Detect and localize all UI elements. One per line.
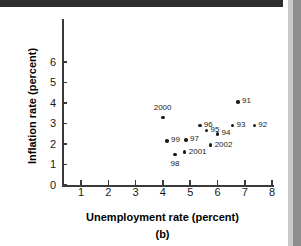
data-point-label-2002: 2002 [215, 141, 233, 149]
x-tick-7 [244, 180, 246, 185]
figure-panel-b: 0123456 12345678 91929394959697989920002… [0, 0, 301, 246]
x-tick-1 [80, 180, 82, 185]
data-point-93 [231, 124, 235, 128]
data-point-2002 [209, 143, 213, 147]
x-tick-8 [271, 180, 273, 185]
y-tick-label-5: 5 [38, 77, 56, 88]
panel-label: (b) [50, 228, 275, 240]
scatter-plot: 0123456 12345678 91929394959697989920002… [0, 0, 301, 246]
x-tick-4 [162, 180, 164, 185]
y-tick-1 [62, 164, 67, 166]
y-tick-0 [62, 184, 67, 186]
x-tick-3 [135, 180, 137, 185]
x-tick-label-7: 7 [236, 187, 254, 198]
data-point-label-96: 96 [204, 121, 213, 129]
y-tick-label-4: 4 [38, 98, 56, 109]
y-axis-title: Inflation rate (percent) [26, 21, 38, 191]
data-point-label-92: 92 [258, 121, 267, 129]
data-point-label-2001: 2001 [189, 148, 207, 156]
y-tick-4 [62, 102, 67, 104]
data-point-96 [198, 124, 202, 128]
y-tick-2 [62, 143, 67, 145]
data-point-label-99: 99 [171, 136, 180, 144]
x-tick-label-1: 1 [72, 187, 90, 198]
x-tick-label-8: 8 [263, 187, 281, 198]
y-tick-label-6: 6 [38, 57, 56, 68]
data-point-label-2000: 2000 [154, 104, 172, 112]
x-tick-2 [108, 180, 110, 185]
x-tick-5 [189, 180, 191, 185]
y-tick-label-3: 3 [38, 118, 56, 129]
x-tick-label-2: 2 [99, 187, 117, 198]
y-tick-5 [62, 82, 67, 84]
x-tick-label-6: 6 [209, 187, 227, 198]
x-tick-label-4: 4 [154, 187, 172, 198]
y-tick-label-0: 0 [38, 180, 56, 191]
data-point-label-94: 94 [222, 129, 231, 137]
data-point-label-97: 97 [190, 135, 199, 143]
x-axis-title: Unemployment rate (percent) [50, 211, 275, 223]
data-point-99 [165, 139, 169, 143]
data-point-label-98: 98 [171, 160, 180, 168]
data-point-label-91: 91 [242, 97, 251, 105]
y-tick-label-2: 2 [38, 139, 56, 150]
data-point-97 [184, 138, 188, 142]
data-point-2001 [183, 150, 187, 154]
y-tick-3 [62, 123, 67, 125]
data-point-98 [173, 153, 177, 157]
x-tick-label-3: 3 [127, 187, 145, 198]
data-point-92 [253, 124, 257, 128]
data-point-95 [205, 129, 209, 133]
data-point-label-93: 93 [237, 121, 246, 129]
y-tick-label-1: 1 [38, 159, 56, 170]
x-tick-label-5: 5 [181, 187, 199, 198]
data-point-2000 [161, 116, 165, 120]
x-tick-6 [217, 180, 219, 185]
y-tick-6 [62, 61, 67, 63]
data-point-91 [236, 100, 240, 104]
